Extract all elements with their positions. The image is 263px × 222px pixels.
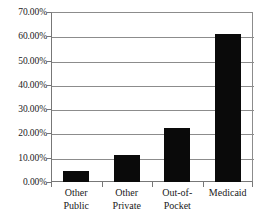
x-category-label-line: Pocket — [152, 200, 203, 213]
x-category-label: OtherPrivate — [102, 187, 153, 212]
y-tick-label: 30.00% — [0, 104, 47, 114]
bar — [215, 34, 241, 182]
bar-chart: 0.00%10.00%20.00%30.00%40.00%50.00%60.00… — [0, 0, 263, 222]
y-tick-label: 60.00% — [0, 31, 47, 41]
y-tick-label: 0.00% — [0, 177, 47, 187]
y-tick-label: 70.00% — [0, 7, 47, 17]
y-tick-label: 50.00% — [0, 56, 47, 66]
x-category-label-line: Other — [102, 187, 153, 200]
bar — [63, 171, 89, 182]
caption-remnant — [26, 215, 166, 219]
x-category-label-line: Other — [51, 187, 102, 200]
bar — [114, 155, 140, 182]
y-tick-label: 10.00% — [0, 153, 47, 163]
x-category-label-line: Out-of- — [152, 187, 203, 200]
x-category-label: OtherPublic — [51, 187, 102, 212]
bars-layer — [51, 12, 253, 182]
x-category-label-line: Private — [102, 200, 153, 213]
x-category-label: Medicaid — [203, 187, 254, 200]
x-category-label-line: Public — [51, 200, 102, 213]
bar — [164, 128, 190, 182]
y-tick-label: 40.00% — [0, 80, 47, 90]
x-category-label-line: Medicaid — [203, 187, 254, 200]
x-axis-labels: OtherPublicOtherPrivateOut-of-PocketMedi… — [51, 187, 253, 217]
y-axis: 0.00%10.00%20.00%30.00%40.00%50.00%60.00… — [0, 0, 47, 222]
x-category-label: Out-of-Pocket — [152, 187, 203, 212]
y-tick-label: 20.00% — [0, 128, 47, 138]
